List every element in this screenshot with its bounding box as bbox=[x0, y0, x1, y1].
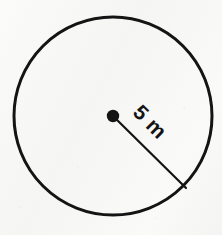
center-point-dot bbox=[107, 110, 119, 122]
circle-diagram: 5 m bbox=[0, 0, 222, 235]
circle-diagram-canvas: 5 m bbox=[0, 0, 222, 235]
